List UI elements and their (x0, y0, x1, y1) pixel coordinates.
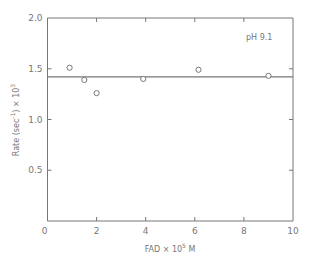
x-tick-label: 4 (143, 226, 149, 236)
y-axis-label: Rate (sec-1) × 103 (9, 84, 21, 157)
x-axis-label-suffix: M (186, 245, 196, 254)
data-point (141, 76, 146, 81)
x-tick-label: 0 (42, 226, 48, 236)
tick-labels: 02468100.51.01.52.0 (28, 13, 299, 236)
y-tick-label: 0.5 (28, 165, 42, 175)
data-point (67, 65, 72, 70)
x-tick-label: 6 (192, 226, 198, 236)
y-tick-label: 1.0 (28, 115, 43, 125)
y-axis-label-main: Rate (sec (12, 119, 21, 157)
chart: 02468100.51.01.52.0 pH 9.1 FAD × 105 M R… (0, 0, 312, 265)
ph-annotation: pH 9.1 (246, 33, 272, 42)
y-axis-label-sup2: 3 (9, 84, 16, 88)
data-point (82, 77, 87, 82)
data-point (266, 73, 271, 78)
x-tick-label: 8 (241, 226, 247, 236)
y-axis-label-mid: ) × 10 (12, 88, 21, 113)
ticks (48, 18, 294, 221)
x-axis-label-main: FAD × 10 (145, 245, 182, 254)
y-tick-label: 2.0 (28, 13, 43, 23)
x-axis-label: FAD × 105 M (145, 242, 196, 254)
data-point (94, 91, 99, 96)
x-tick-label: 2 (94, 226, 100, 236)
data-points (67, 65, 271, 96)
data-point (196, 67, 201, 72)
y-tick-label: 1.5 (28, 64, 42, 74)
axes (48, 18, 294, 221)
x-tick-label: 10 (287, 226, 299, 236)
